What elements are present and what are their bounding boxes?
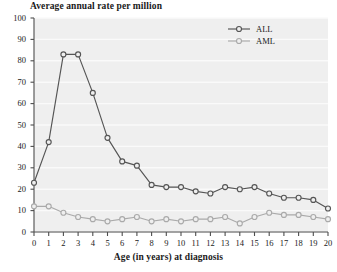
legend-markers: [228, 27, 250, 44]
y-tick-label: 80: [2, 55, 26, 65]
legend-label-all: ALL: [256, 24, 273, 34]
x-tick-label: 13: [217, 238, 233, 248]
y-tick-label: 20: [2, 184, 26, 194]
x-tick-label: 1: [41, 238, 57, 248]
x-tick-label: 18: [291, 238, 307, 248]
x-tick-label: 5: [100, 238, 116, 248]
x-tick-label: 9: [158, 238, 174, 248]
x-tick-label: 12: [202, 238, 218, 248]
x-tick-label: 10: [173, 238, 189, 248]
y-tick-label: 90: [2, 34, 26, 44]
x-tick-label: 2: [55, 238, 71, 248]
x-tick-label: 7: [129, 238, 145, 248]
x-tick-label: 16: [261, 238, 277, 248]
x-tick-label: 19: [305, 238, 321, 248]
tick-marks: [31, 18, 329, 236]
legend-label-aml: AML: [256, 36, 275, 46]
y-tick-label: 70: [2, 77, 26, 87]
y-tick-label: 40: [2, 141, 26, 151]
x-axis-title: Age (in years) at diagnosis: [0, 252, 337, 262]
x-tick-label: 3: [70, 238, 86, 248]
y-tick-label: 0: [2, 227, 26, 237]
x-tick-label: 20: [320, 238, 336, 248]
chart-figure: Average annual rate per million 01020304…: [0, 0, 337, 272]
x-tick-label: 11: [188, 238, 204, 248]
x-tick-label: 17: [276, 238, 292, 248]
x-tick-label: 14: [232, 238, 248, 248]
x-tick-label: 15: [247, 238, 263, 248]
y-tick-label: 100: [2, 13, 26, 23]
y-tick-label: 50: [2, 120, 26, 130]
y-tick-label: 60: [2, 98, 26, 108]
y-tick-label: 10: [2, 205, 26, 215]
y-tick-label: 30: [2, 162, 26, 172]
x-tick-label: 6: [114, 238, 130, 248]
x-tick-label: 0: [26, 238, 42, 248]
data-series-layer: [32, 52, 331, 226]
x-tick-label: 8: [144, 238, 160, 248]
chart-canvas: [0, 0, 337, 272]
x-tick-label: 4: [85, 238, 101, 248]
